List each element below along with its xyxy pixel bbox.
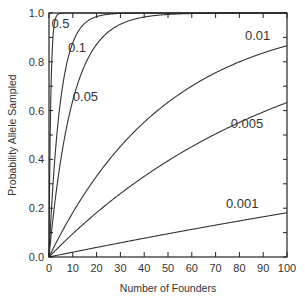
y-axis-title: Probability Allele Sampled xyxy=(6,74,18,196)
y-tick-label: 0.4 xyxy=(29,153,44,165)
curve-labels: 0.50.10.050.010.0050.001 xyxy=(51,16,270,212)
x-tick-label: 90 xyxy=(257,262,269,274)
y-tick-label: 0.6 xyxy=(29,105,44,117)
x-tick-label: 80 xyxy=(233,262,245,274)
x-tick-label: 20 xyxy=(90,262,102,274)
x-tick-label: 0 xyxy=(46,262,52,274)
curve-label-0_05: 0.05 xyxy=(73,89,98,104)
probability-allele-sampled-chart: 0102030405060708090100 0.00.20.40.60.81.… xyxy=(0,0,305,302)
curve-label-0_5: 0.5 xyxy=(51,16,69,31)
y-tick-label: 0.8 xyxy=(29,56,44,68)
curve-label-0_005: 0.005 xyxy=(231,116,264,131)
x-tick-label: 70 xyxy=(209,262,221,274)
x-tick-label: 30 xyxy=(114,262,126,274)
x-axis-title: Number of Founders xyxy=(120,282,216,294)
curve-label-0_001: 0.001 xyxy=(226,196,259,211)
curve-label-0_01: 0.01 xyxy=(245,28,270,43)
curve-label-0_1: 0.1 xyxy=(68,40,86,55)
y-tick-label: 0.2 xyxy=(29,202,44,214)
x-tick-label: 100 xyxy=(278,262,296,274)
y-tick-label: 1.0 xyxy=(29,7,44,19)
x-tick-label: 10 xyxy=(67,262,79,274)
y-tick-label: 0.0 xyxy=(29,251,44,263)
curve-0_001 xyxy=(49,213,287,257)
x-tick-label: 50 xyxy=(162,262,174,274)
x-tick-label: 40 xyxy=(138,262,150,274)
x-tick-label: 60 xyxy=(186,262,198,274)
curve-0_01 xyxy=(49,46,287,257)
